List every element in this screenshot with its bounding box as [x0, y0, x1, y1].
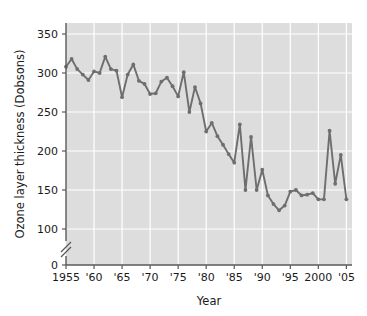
data-point	[75, 67, 79, 71]
data-point	[322, 197, 326, 201]
data-point	[260, 168, 264, 172]
x-tick-label: '85	[226, 271, 243, 284]
data-point	[232, 161, 236, 165]
y-tick-label: 200	[37, 145, 58, 158]
data-point	[227, 152, 231, 156]
data-point	[120, 95, 124, 99]
data-point	[216, 134, 220, 138]
data-point	[277, 208, 281, 212]
data-point	[244, 188, 248, 192]
data-point	[238, 123, 242, 127]
data-point	[249, 135, 253, 139]
data-point	[87, 78, 91, 82]
data-point	[255, 188, 259, 192]
data-point	[92, 70, 96, 74]
data-point	[266, 194, 270, 198]
x-tick-label: '70	[142, 271, 159, 284]
data-point	[148, 92, 152, 96]
data-point	[81, 73, 85, 77]
data-point	[300, 194, 304, 198]
data-point	[137, 79, 141, 83]
y-axis-title: Ozone layer thickness (Dobsons)	[13, 49, 27, 238]
data-point	[109, 67, 113, 71]
x-tick-label: 2000	[304, 271, 332, 284]
data-point	[70, 57, 74, 61]
data-point	[187, 110, 191, 114]
x-tick-label: '60	[86, 271, 103, 284]
data-point	[165, 76, 169, 80]
x-tick-label: '80	[198, 271, 215, 284]
data-point	[176, 95, 180, 99]
data-point	[204, 130, 208, 134]
x-tick-label: 1955	[52, 271, 80, 284]
data-point	[210, 121, 214, 125]
data-point	[171, 84, 175, 88]
data-point	[131, 63, 135, 67]
data-point	[103, 55, 107, 59]
x-tick-label: '65	[114, 271, 131, 284]
x-tick-label: '05	[338, 271, 355, 284]
data-point	[182, 70, 186, 74]
data-point	[339, 153, 343, 157]
data-point	[221, 143, 225, 147]
data-point	[143, 82, 147, 86]
data-point	[344, 197, 348, 201]
data-point	[159, 80, 163, 84]
x-axis-title: Year	[196, 294, 222, 308]
data-point	[333, 182, 337, 186]
y-tick-label: 300	[37, 67, 58, 80]
x-tick-label: '90	[254, 271, 271, 284]
x-tick-label: '95	[282, 271, 299, 284]
data-point	[316, 197, 320, 201]
y-tick-label: 350	[37, 28, 58, 41]
data-point	[193, 85, 197, 89]
data-point	[305, 193, 309, 197]
x-tick-label: '75	[170, 271, 187, 284]
data-point	[126, 73, 130, 77]
data-point	[115, 69, 119, 73]
y-tick-label: 250	[37, 106, 58, 119]
data-point	[272, 202, 276, 206]
data-point	[283, 204, 287, 208]
data-point	[328, 129, 332, 133]
data-point	[154, 91, 158, 95]
y-tick-label: 100	[37, 223, 58, 236]
data-point	[294, 188, 298, 192]
y-tick-label: 150	[37, 184, 58, 197]
data-point	[311, 191, 315, 195]
ozone-thickness-line-chart: 0100150200250300350 1955'60'65'70'75'80'…	[0, 0, 367, 316]
data-point	[199, 102, 203, 106]
data-point	[98, 71, 102, 75]
data-point	[288, 190, 292, 194]
